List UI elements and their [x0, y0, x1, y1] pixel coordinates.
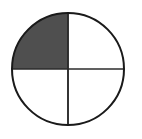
fraction-circle-figure: Circle divided into four equal quadrants…	[0, 0, 142, 139]
fraction-circle-diagram: Circle divided into four equal quadrants…	[0, 0, 142, 139]
